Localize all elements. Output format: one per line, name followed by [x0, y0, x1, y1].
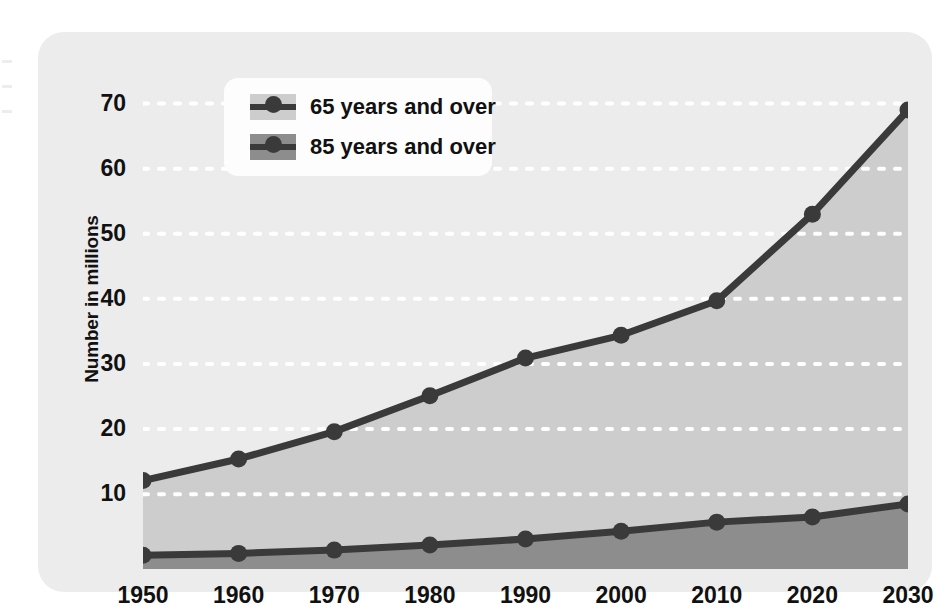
- data-point-marker: [708, 514, 725, 531]
- data-point-marker: [517, 350, 534, 367]
- data-point-marker: [517, 531, 534, 548]
- x-axis-tick-label: 2000: [581, 584, 661, 607]
- legend-swatch-65-icon: [250, 94, 296, 120]
- x-axis-tick-label: 1980: [390, 584, 470, 607]
- legend-item-85-and-over: 85 years and over: [250, 130, 496, 164]
- page-edge-artifact: [2, 60, 16, 180]
- y-axis-tick-label: 60: [80, 157, 126, 180]
- x-axis-tick-label: 2010: [677, 584, 757, 607]
- x-axis-tick-label: 2020: [772, 584, 852, 607]
- legend-item-65-and-over: 65 years and over: [250, 90, 496, 124]
- x-axis-tick-label: 1990: [486, 584, 566, 607]
- legend-label-65: 65 years and over: [310, 94, 496, 120]
- y-axis-tick-label: 30: [80, 352, 126, 375]
- x-axis-tick-label: 1970: [294, 584, 374, 607]
- legend-swatch-85-icon: [250, 134, 296, 160]
- y-axis-tick-label: 40: [80, 287, 126, 310]
- y-axis-tick-label: 70: [80, 92, 126, 115]
- edge-mark: [2, 85, 12, 88]
- data-point-marker: [421, 387, 438, 404]
- series-area-fill: [143, 110, 908, 569]
- data-point-marker: [804, 206, 821, 223]
- legend-label-85: 85 years and over: [310, 134, 496, 160]
- data-point-marker: [613, 523, 630, 540]
- data-point-marker: [326, 423, 343, 440]
- chart-legend: 65 years and over 85 years and over: [224, 78, 492, 176]
- edge-mark: [2, 110, 12, 113]
- data-point-marker: [230, 545, 247, 562]
- data-point-marker: [326, 542, 343, 559]
- x-axis-tick-label: 1950: [103, 584, 183, 607]
- x-axis-tick-label: 2030: [868, 584, 948, 607]
- y-axis-tick-label: 50: [80, 222, 126, 245]
- legend-marker-dot-icon: [265, 136, 282, 153]
- data-point-marker: [421, 536, 438, 553]
- y-axis-tick-label: 20: [80, 417, 126, 440]
- edge-mark: [2, 60, 12, 63]
- data-point-marker: [708, 292, 725, 309]
- y-axis-tick-label: 10: [80, 482, 126, 505]
- chart-panel: Number in millions 10203040506070 195019…: [38, 32, 932, 592]
- chart-figure: Number in millions 10203040506070 195019…: [0, 0, 948, 610]
- data-point-marker: [804, 508, 821, 525]
- legend-marker-dot-icon: [265, 96, 282, 113]
- data-point-marker: [613, 327, 630, 344]
- data-point-marker: [230, 450, 247, 467]
- x-axis-tick-label: 1960: [199, 584, 279, 607]
